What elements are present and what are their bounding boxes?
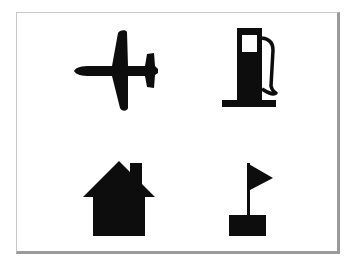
canvas: Airport Gas station Home Destination fla… bbox=[0, 0, 351, 265]
